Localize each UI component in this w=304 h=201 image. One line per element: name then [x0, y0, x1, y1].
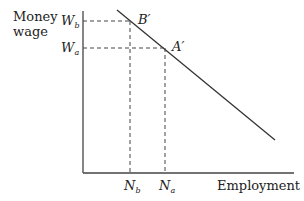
wage-level-wa: Wa	[61, 40, 79, 57]
employment-level-na: Na	[158, 178, 175, 195]
x-axis-label: Employment	[217, 178, 301, 193]
wage-employment-line	[117, 10, 275, 140]
y-axis-label-line1: Money	[13, 9, 58, 24]
employment-level-nb: Nb	[123, 178, 141, 195]
point-b-prime: B′	[137, 12, 151, 27]
money-wage-employment-diagram: Money wage Wb Wa B′ A′ Nb Na Employment	[0, 0, 304, 201]
wage-level-wb: Wb	[61, 13, 80, 30]
point-a-prime: A′	[171, 39, 184, 54]
y-axis-label-line2: wage	[13, 24, 48, 39]
